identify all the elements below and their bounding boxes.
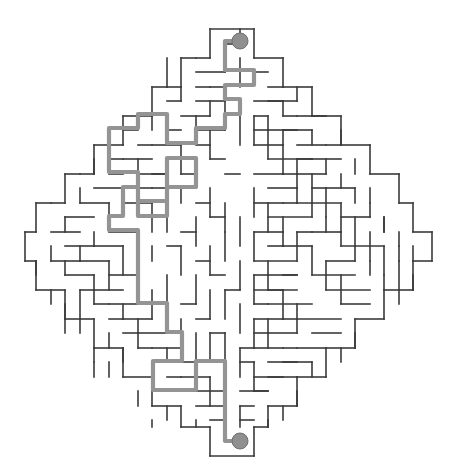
maze-canvas — [0, 0, 459, 475]
maze-page — [0, 0, 459, 475]
maze-walls — [25, 29, 432, 456]
maze-start-marker — [232, 33, 248, 49]
maze-finish-marker — [232, 433, 248, 449]
